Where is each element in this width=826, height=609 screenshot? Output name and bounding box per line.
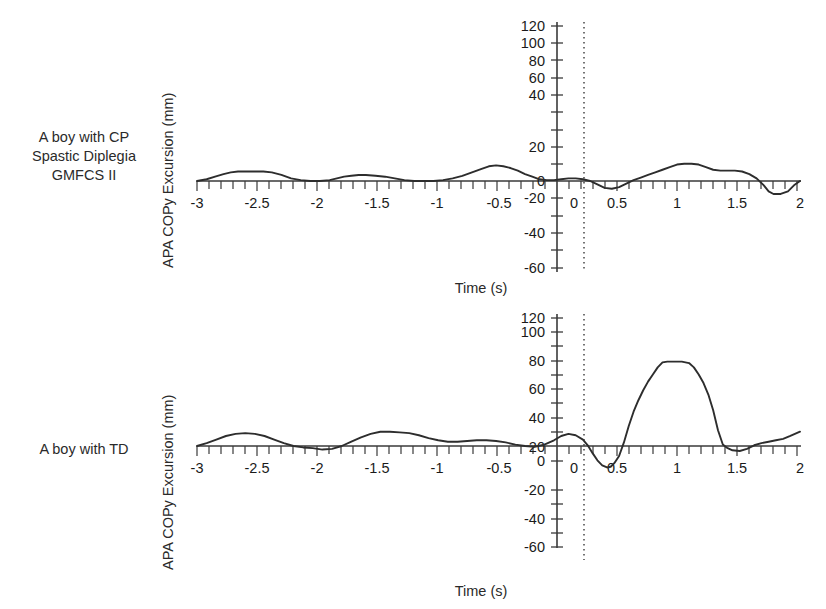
x-axis-label-td: Time (s)	[381, 583, 581, 599]
x-tick-label: 0.5	[607, 460, 627, 476]
y-tick-label: 80	[529, 353, 545, 369]
x-tick-label: 1.5	[727, 195, 747, 211]
x-tick-label: -1	[431, 195, 444, 211]
y-tick-label: 80	[529, 53, 545, 69]
y-tick-label: 60	[529, 70, 545, 86]
x-tick-label: 0	[570, 195, 578, 211]
y-tick-labels-td: 120 100 80 60 40 20 0 -20 -40 -60	[521, 310, 545, 555]
y-tick-label: -40	[524, 511, 545, 527]
x-tick-label: -2	[311, 195, 324, 211]
x-tick-labels-td: -3 -2.5 -2 -1.5 -1 -0.5 0 0.5 1 1.5 2	[191, 460, 804, 476]
x-tick-label: 0.5	[607, 195, 627, 211]
plot-area-cp: 120 100 80 60 40 20 0 -20 -40 -60 -3 -2.…	[191, 18, 804, 276]
chart-svg-cp: 120 100 80 60 40 20 0 -20 -40 -60 -3 -2.…	[0, 0, 826, 300]
x-tick-label: -2.5	[245, 460, 270, 476]
x-tick-label: 2	[796, 195, 804, 211]
x-tick-label: 1	[673, 460, 681, 476]
x-tick-label: 1	[673, 195, 681, 211]
y-tick-label: 40	[529, 87, 545, 103]
x-tick-label: -3	[191, 460, 204, 476]
y-tick-label: -20	[524, 482, 545, 498]
x-axis-label-cp: Time (s)	[381, 280, 581, 296]
x-ticks-td	[197, 446, 797, 456]
y-tick-label: 100	[521, 324, 545, 340]
x-ticks-cp	[197, 181, 797, 191]
y-tick-label: -40	[524, 225, 545, 241]
x-tick-label: 0	[570, 460, 578, 476]
panel-td: A boy with TD APA COPy Excursion (mm)	[0, 300, 826, 600]
x-tick-label: -0.5	[487, 460, 512, 476]
y-tick-label: 120	[521, 18, 545, 34]
chart-svg-td: 120 100 80 60 40 20 0 -20 -40 -60 -3 -2.…	[0, 300, 826, 600]
x-tick-label: -1	[431, 460, 444, 476]
x-tick-labels-cp: -3 -2.5 -2 -1.5 -1 -0.5 0 0.5 1 1.5 2	[191, 195, 804, 211]
x-tick-label: -1.5	[365, 460, 390, 476]
y-tick-label: 40	[529, 410, 545, 426]
y-tick-label: 0	[537, 453, 545, 469]
data-trace-td	[197, 362, 800, 468]
y-tick-label: 20	[529, 139, 545, 155]
y-tick-label: -20	[524, 190, 545, 206]
y-tick-label: 100	[521, 35, 545, 51]
y-tick-labels-cp: 120 100 80 60 40 20 0 -20 -40 -60	[521, 18, 545, 276]
x-tick-label: 2	[796, 460, 804, 476]
y-tick-label: -60	[524, 539, 545, 555]
x-tick-label: -0.5	[487, 195, 512, 211]
y-tick-label: -60	[524, 260, 545, 276]
x-tick-label: 1.5	[727, 460, 747, 476]
data-trace-cp	[197, 164, 800, 194]
x-tick-label: -2	[311, 460, 324, 476]
x-tick-label: -3	[191, 195, 204, 211]
x-tick-label: -2.5	[245, 195, 270, 211]
x-tick-label: -1.5	[365, 195, 390, 211]
panel-cp: A boy with CP Spastic Diplegia GMFCS II …	[0, 0, 826, 300]
plot-area-td: 120 100 80 60 40 20 0 -20 -40 -60 -3 -2.…	[191, 310, 804, 560]
y-tick-label: 60	[529, 381, 545, 397]
y-tick-label: 0	[537, 173, 545, 189]
